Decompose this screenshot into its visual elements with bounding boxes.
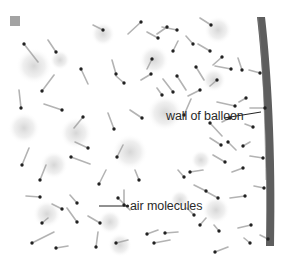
molecule-trail [190, 170, 203, 172]
molecule-trail [56, 246, 68, 248]
air-molecule [114, 72, 117, 75]
molecule-trail [141, 74, 151, 80]
air-molecule [223, 160, 226, 163]
haze-blob [202, 68, 226, 92]
air-molecule [241, 144, 244, 147]
molecule-trail [232, 168, 243, 172]
air-molecule [19, 106, 22, 109]
air-molecule [101, 28, 104, 31]
air-molecules-label: air molecules [130, 200, 202, 213]
air-molecule [215, 78, 218, 81]
air-molecule [175, 28, 178, 31]
air-molecule [171, 49, 174, 52]
motion-haze-layer [8, 16, 232, 257]
air-molecule [86, 146, 89, 149]
air-molecule [229, 67, 232, 70]
air-molecule [226, 140, 229, 143]
air-molecule [263, 106, 266, 109]
molecule-trail [177, 76, 186, 90]
molecule-trail [48, 40, 56, 52]
haze-blob [112, 134, 148, 170]
air-molecule [160, 93, 163, 96]
air-molecule [38, 178, 41, 181]
molecule-trail [249, 70, 260, 73]
air-molecule [240, 68, 243, 71]
air-molecule [54, 246, 57, 249]
air-molecule [233, 104, 236, 107]
molecule-trail [210, 123, 222, 136]
haze-blob [202, 196, 230, 224]
haze-blob [191, 150, 211, 170]
molecule-trail [147, 230, 158, 234]
air-molecule [198, 88, 201, 91]
molecule-trail [213, 155, 225, 162]
molecule-trail [32, 232, 54, 243]
air-molecule [243, 194, 246, 197]
molecule-trail [44, 104, 62, 110]
haze-blob [204, 16, 232, 44]
molecule-trail [250, 156, 263, 158]
air-molecule [137, 178, 140, 181]
air-molecule [40, 221, 43, 224]
air-molecule [40, 89, 43, 92]
molecule-trail [188, 90, 200, 96]
air-molecule [156, 36, 159, 39]
air-molecule [192, 213, 195, 216]
molecule-trail [165, 232, 178, 233]
molecule-trail [128, 22, 141, 34]
molecule-trail [81, 69, 88, 84]
air-molecule [194, 65, 197, 68]
molecule-trail [99, 170, 106, 184]
air-molecule [54, 50, 57, 53]
air-molecule [198, 223, 201, 226]
molecule-trail [215, 247, 228, 252]
air-molecule [220, 55, 223, 58]
molecule-trail [163, 79, 173, 92]
air-molecule [81, 115, 84, 118]
molecule-trail [210, 138, 221, 145]
air-molecule [114, 241, 117, 244]
haze-blob [108, 233, 132, 257]
air-molecule [244, 96, 247, 99]
molecule-trail [108, 113, 114, 129]
haze-blob [60, 117, 92, 149]
air-molecule [79, 67, 82, 70]
wall-of-balloon-label: wall of balloon [166, 110, 244, 123]
molecule-trail [67, 208, 77, 222]
air-molecule [30, 241, 33, 244]
haze-blob [50, 50, 70, 70]
haze-blob [16, 48, 52, 84]
air-molecule [116, 196, 119, 199]
air-molecule [149, 72, 152, 75]
molecule-trail [213, 57, 222, 65]
molecule-trail [22, 148, 29, 165]
air-molecule [217, 229, 220, 232]
air-molecule [150, 57, 153, 60]
balloon-diagram: wall of balloon air molecules [0, 0, 290, 268]
molecule-trail [112, 60, 116, 74]
haze-blob [139, 45, 169, 75]
air-molecule [94, 245, 97, 248]
molecule-trail [26, 196, 40, 197]
air-molecule [22, 42, 25, 45]
molecule-trail [238, 58, 242, 70]
molecule-trail [194, 185, 206, 191]
air-molecule [112, 127, 115, 130]
air-molecule [191, 42, 194, 45]
air-molecule [145, 232, 148, 235]
molecule-trail [88, 216, 100, 223]
air-molecule [97, 182, 100, 185]
air-molecule [122, 81, 125, 84]
air-molecule [98, 221, 101, 224]
air-molecule [208, 49, 211, 52]
air-molecule [152, 241, 155, 244]
air-molecule [163, 231, 166, 234]
air-molecule [60, 108, 63, 111]
air-molecule [69, 155, 72, 158]
air-molecule [209, 23, 212, 26]
haze-blob [33, 200, 61, 228]
air-molecule [241, 166, 244, 169]
air-molecule [75, 220, 78, 223]
air-molecule [248, 241, 251, 244]
air-molecule [251, 125, 254, 128]
